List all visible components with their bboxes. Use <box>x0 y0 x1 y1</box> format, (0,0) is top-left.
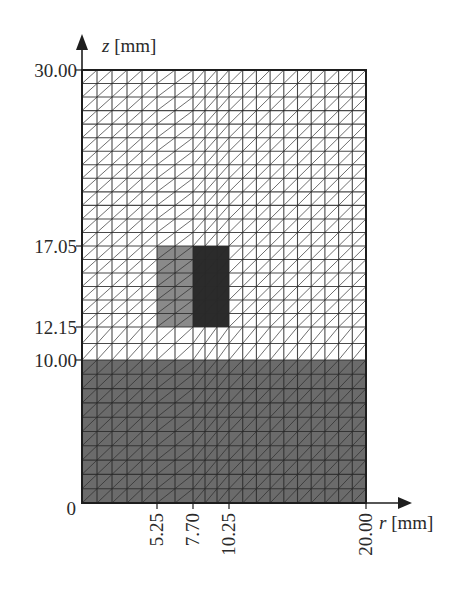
mesh-diagonal <box>256 287 270 301</box>
mesh-diagonal <box>97 84 112 98</box>
mesh-diagonal <box>284 232 298 246</box>
mesh-diagonal <box>284 111 298 125</box>
mesh-diagonal <box>127 84 142 98</box>
mesh-diagonal <box>298 205 312 219</box>
mesh-diagonal <box>339 70 353 84</box>
mesh-diagonal <box>205 124 217 138</box>
mesh-diagonal <box>243 219 257 233</box>
mesh-diagonal <box>243 313 257 327</box>
mesh-diagonal <box>157 165 175 179</box>
mesh-diagonal <box>97 178 112 192</box>
mesh-diagonal <box>243 287 257 301</box>
mesh-diagonal <box>229 165 243 179</box>
mesh-diagonal <box>311 327 325 344</box>
mesh-diagonal <box>284 165 298 179</box>
mesh-diagonal <box>229 344 243 361</box>
mesh-diagonal <box>112 151 127 165</box>
mesh-diagonal <box>352 273 366 287</box>
mesh-diagonal <box>157 232 175 246</box>
mesh-diagonal <box>112 192 127 206</box>
mesh-diagonal <box>175 97 193 111</box>
mesh-diagonal <box>97 192 112 206</box>
mesh-diagonal <box>339 111 353 125</box>
mesh-diagonal <box>325 111 339 125</box>
mesh-diagonal <box>243 344 257 361</box>
mesh-diagonal <box>82 165 97 179</box>
mesh-diagonal <box>127 260 142 273</box>
mesh-diagonal <box>339 313 353 327</box>
mesh-diagonal <box>157 97 175 111</box>
mesh-diagonal <box>142 124 157 138</box>
mesh-diagonal <box>352 300 366 313</box>
mesh-diagonal <box>311 232 325 246</box>
mesh-diagonal <box>142 232 157 246</box>
mesh-diagonal <box>229 287 243 301</box>
mesh-diagonal <box>217 205 229 219</box>
mesh-diagonal <box>284 260 298 273</box>
mesh-diagonal <box>229 232 243 246</box>
mesh-diagonal <box>298 246 312 260</box>
mesh-diagonal <box>157 84 175 98</box>
mesh-diagonal <box>175 84 193 98</box>
mesh-diagonal <box>270 246 284 260</box>
r-axis-label: r [mm] <box>379 512 433 533</box>
mesh-diagonal <box>97 124 112 138</box>
mesh-diagonal <box>97 151 112 165</box>
mesh-diagonal <box>82 313 97 327</box>
mesh-diagonal <box>325 84 339 98</box>
mesh-diagonal <box>205 327 217 344</box>
mesh-diagonal <box>193 192 205 206</box>
mesh-diagonal <box>193 205 205 219</box>
mesh-diagonal <box>339 344 353 361</box>
mesh-diagonal <box>270 232 284 246</box>
mesh-diagonal <box>298 124 312 138</box>
mesh-diagonal <box>142 344 157 361</box>
mesh-diagonal <box>142 260 157 273</box>
mesh-diagonal <box>157 151 175 165</box>
mesh-diagonal <box>243 246 257 260</box>
mesh-diagonal <box>217 327 229 344</box>
mesh-diagonal <box>97 70 112 84</box>
mesh-diagonal <box>284 327 298 344</box>
mesh-diagonal <box>298 178 312 192</box>
mesh-diagonal <box>82 97 97 111</box>
r-axis-arrow-icon <box>398 497 412 509</box>
mesh-diagonal <box>325 138 339 152</box>
mesh-diagonal <box>298 273 312 287</box>
mesh-diagonal <box>243 111 257 125</box>
mesh-diagonal <box>339 287 353 301</box>
mesh-diagonal <box>325 232 339 246</box>
mesh-diagonal <box>229 327 243 344</box>
mesh-diagonal <box>112 273 127 287</box>
mesh-diagonal <box>205 70 217 84</box>
mesh-diagonal <box>270 300 284 313</box>
mesh-diagonal <box>217 151 229 165</box>
mesh-diagonal <box>112 138 127 152</box>
mesh-diagonal <box>298 165 312 179</box>
mesh-diagonal <box>142 273 157 287</box>
mesh-diagonal <box>82 287 97 301</box>
mesh-diagonal <box>205 84 217 98</box>
mesh-diagonal <box>352 97 366 111</box>
y-tick-label: 30.00 <box>34 60 77 81</box>
mesh-diagonal <box>352 260 366 273</box>
mesh-diagonal <box>270 327 284 344</box>
mesh-diagonal <box>193 138 205 152</box>
mesh-diagonal <box>229 97 243 111</box>
mesh-diagonal <box>97 273 112 287</box>
mesh-diagonal <box>157 111 175 125</box>
mesh-diagonal <box>352 70 366 84</box>
mesh-diagonal <box>339 97 353 111</box>
mesh-diagonal <box>352 111 366 125</box>
y-tick-label: 12.15 <box>34 317 77 338</box>
mesh-diagonal <box>256 70 270 84</box>
mesh-diagonal <box>229 192 243 206</box>
mesh-diagonal <box>243 84 257 98</box>
mesh-diagonal <box>217 111 229 125</box>
mesh-diagonal <box>325 205 339 219</box>
mesh-diagonal <box>229 151 243 165</box>
mesh-diagonal <box>256 246 270 260</box>
mesh-diagonal <box>82 151 97 165</box>
mesh-diagonal <box>82 300 97 313</box>
mesh-diagonal <box>112 111 127 125</box>
